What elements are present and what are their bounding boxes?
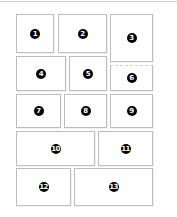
- panel-13: 13: [74, 168, 153, 206]
- number-badge: 12: [39, 182, 49, 192]
- number-badge: 6: [127, 73, 137, 83]
- number-badge: 13: [109, 182, 119, 192]
- number-badge: 2: [78, 29, 88, 39]
- number-badge: 4: [36, 69, 46, 79]
- panel-5: 5: [69, 56, 107, 91]
- number-badge: 11: [121, 144, 131, 154]
- panel-7: 7: [16, 94, 61, 128]
- panel-1: 1: [16, 14, 54, 53]
- panel-3: 3: [110, 14, 153, 62]
- panel-9: 9: [110, 94, 153, 128]
- number-badge: 10: [51, 144, 61, 154]
- panel-8: 8: [64, 94, 107, 128]
- panel-2: 2: [58, 14, 107, 53]
- panel-12: 12: [16, 168, 71, 206]
- number-badge: 9: [127, 106, 137, 116]
- number-badge: 8: [81, 106, 91, 116]
- number-badge: 1: [30, 29, 40, 39]
- panel-10: 10: [16, 131, 95, 166]
- number-badge: 7: [34, 106, 44, 116]
- number-badge: 5: [83, 69, 93, 79]
- number-badge: 3: [127, 33, 137, 43]
- panel-4: 4: [16, 56, 66, 91]
- top-divider-line: [0, 1, 177, 2]
- panel-6: 6: [110, 65, 153, 91]
- panel-11: 11: [98, 131, 153, 166]
